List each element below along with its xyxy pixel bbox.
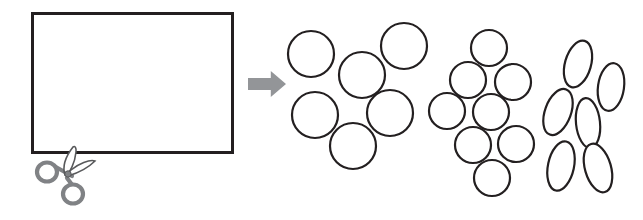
arrow-right-icon	[248, 71, 286, 97]
scissors-ring-lower	[63, 185, 83, 204]
cluster2-circle	[498, 126, 534, 162]
cluster3-ellipse	[579, 140, 618, 195]
cluster3-ellipse	[538, 85, 579, 139]
cluster3-ellipse	[559, 37, 597, 90]
cluster-tall-ellipses	[538, 37, 628, 195]
process-arrow	[248, 71, 286, 97]
figure-root	[0, 0, 643, 220]
cluster2-circle	[450, 62, 486, 98]
shape-cutting-diagram	[0, 0, 643, 220]
cluster2-circle	[471, 30, 507, 66]
cluster1-circle	[292, 92, 338, 138]
cluster2-circle	[495, 64, 531, 100]
packed-sheet-panel	[33, 11, 236, 156]
cluster-large-circles	[288, 23, 427, 169]
cluster1-circle	[367, 90, 413, 136]
cluster1-circle	[339, 52, 385, 98]
scissors-pivot	[65, 171, 71, 177]
cluster2-circle	[473, 94, 509, 130]
cluster1-circle	[330, 123, 376, 169]
cluster2-circle	[474, 160, 510, 196]
scissors	[37, 147, 95, 204]
scissors-ring-left	[37, 163, 57, 182]
cluster3-ellipse	[595, 61, 627, 112]
cluster1-circle	[381, 23, 427, 69]
cluster1-circle	[288, 31, 334, 77]
cluster2-circle	[455, 127, 491, 163]
cluster2-circle	[429, 93, 465, 129]
cluster3-ellipse	[543, 139, 579, 193]
panel-frame-overlay	[33, 14, 233, 153]
cluster3-ellipse	[573, 97, 602, 149]
cluster-medium-circles	[429, 30, 534, 196]
